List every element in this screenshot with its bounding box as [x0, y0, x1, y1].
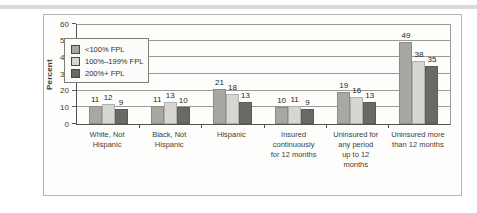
bar--100-FPL-group0: [89, 106, 102, 124]
bar-value-label: 49: [395, 31, 417, 40]
scan-top-rule: [0, 5, 477, 9]
bar-value-label: 10: [172, 96, 194, 105]
legend-item-label: 100%–199% FPL: [85, 57, 143, 66]
x-tick-mark-2: [201, 124, 202, 128]
bar-value-label: 9: [110, 98, 132, 107]
y-tick-label-10: 10: [51, 103, 69, 112]
bar--100-FPL-group4: [337, 92, 350, 124]
category-label-3: Insured continuously for 12 months: [260, 130, 328, 160]
gridline-20: [77, 90, 450, 91]
x-tick-mark-5: [388, 124, 389, 128]
y-tick-mark-20: [72, 90, 76, 91]
bar-value-label: 13: [234, 91, 256, 100]
figure-box: Percent 11129111310211813101191916134938…: [43, 14, 462, 196]
bar-200-FPL-group3: [301, 109, 314, 124]
y-tick-label-0: 0: [51, 120, 69, 129]
bar-value-label: 13: [359, 91, 381, 100]
bar-200-FPL-group4: [363, 102, 376, 124]
category-label-5: Uninsured more than 12 months: [384, 130, 452, 150]
legend: <100% FPL100%–199% FPL200%+ FPL: [64, 38, 149, 83]
bar-value-label: 9: [297, 98, 319, 107]
x-tick-mark-1: [139, 124, 140, 128]
bar-200-FPL-group2: [239, 102, 252, 124]
legend-item-label: 200%+ FPL: [85, 69, 124, 78]
x-tick-mark-3: [264, 124, 265, 128]
legend-swatch-icon: [71, 57, 80, 66]
legend-item-0: <100% FPL: [71, 43, 143, 55]
category-label-2: Hispanic: [197, 130, 265, 140]
category-label-1: Black, Not Hispanic: [135, 130, 203, 150]
y-tick-label-20: 20: [51, 86, 69, 95]
x-tick-mark-4: [326, 124, 327, 128]
legend-item-label: <100% FPL: [85, 45, 124, 54]
bar--100-FPL-group2: [213, 89, 226, 124]
bar-value-label: 35: [421, 55, 443, 64]
y-tick-mark-0: [72, 123, 76, 124]
bar-100-199-FPL-group5: [412, 61, 425, 124]
gridline-60: [77, 24, 450, 25]
legend-swatch-icon: [71, 69, 80, 78]
bar--100-FPL-group1: [151, 106, 164, 124]
bar-200-FPL-group5: [425, 66, 438, 124]
gridline-10: [77, 106, 450, 107]
y-tick-label-60: 60: [51, 20, 69, 29]
bar-100-199-FPL-group4: [350, 97, 363, 124]
legend-swatch-icon: [71, 45, 80, 54]
legend-item-2: 200%+ FPL: [71, 67, 143, 79]
y-tick-mark-60: [72, 23, 76, 24]
bar--100-FPL-group3: [275, 107, 288, 124]
bar-200-FPL-group1: [177, 107, 190, 124]
bar-100-199-FPL-group1: [164, 102, 177, 124]
category-label-4: Uninsured for any period up to 12 months: [322, 130, 390, 170]
bar-200-FPL-group0: [115, 109, 128, 124]
y-tick-mark-10: [72, 106, 76, 107]
bar-100-199-FPL-group0: [102, 104, 115, 124]
category-label-0: White, Not Hispanic: [73, 130, 141, 150]
legend-item-1: 100%–199% FPL: [71, 55, 143, 67]
bar-100-199-FPL-group3: [288, 106, 301, 124]
